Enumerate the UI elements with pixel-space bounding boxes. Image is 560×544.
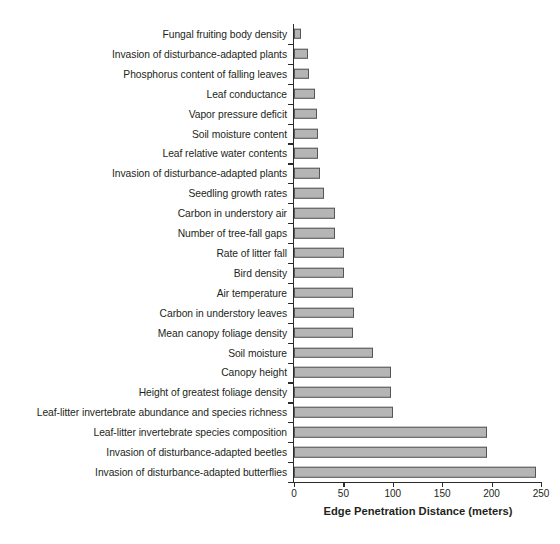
bar-row: Carbon in understory air <box>0 202 560 223</box>
bar-category-label: Invasion of disturbance-adapted butterfl… <box>95 467 287 478</box>
bar-row: Height of greatest foliage density <box>0 382 560 403</box>
bar-row: Invasion of disturbance-adapted butterfl… <box>0 461 560 482</box>
x-axis-tick <box>541 482 542 487</box>
bar-row: Leaf conductance <box>0 83 560 104</box>
bar <box>294 29 301 40</box>
bar <box>294 327 353 338</box>
bar-row: Number of tree-fall gaps <box>0 222 560 243</box>
bar-category-label: Seedling growth rates <box>188 188 287 199</box>
bar <box>294 387 391 398</box>
x-axis-tick <box>442 482 443 487</box>
edge-penetration-bar-chart: Fungal fruiting body densityInvasion of … <box>0 0 560 544</box>
bar <box>294 288 353 299</box>
bar-row: Mean canopy foliage density <box>0 322 560 343</box>
bar-category-label: Leaf-litter invertebrate species composi… <box>93 427 287 438</box>
y-axis-tick <box>288 482 293 483</box>
bar-category-label: Fungal fruiting body density <box>162 28 287 39</box>
bar-category-label: Invasion of disturbance-adapted beetles <box>106 447 287 458</box>
bar-category-label: Vapor pressure deficit <box>189 108 287 119</box>
bar-category-label: Rate of litter fall <box>216 247 287 258</box>
bar-category-label: Leaf relative water contents <box>162 148 287 159</box>
bar <box>294 407 393 418</box>
x-axis-tick-label: 100 <box>384 488 401 499</box>
bar <box>294 307 354 318</box>
bar-category-label: Invasion of disturbance-adapted plants <box>112 48 287 59</box>
bar-row: Fungal fruiting body density <box>0 23 560 44</box>
bar-row: Soil moisture <box>0 342 560 363</box>
bar <box>294 128 318 139</box>
bar-row: Air temperature <box>0 282 560 303</box>
bar-row: Canopy height <box>0 362 560 383</box>
bar <box>294 108 317 119</box>
x-axis-title: Edge Penetration Distance (meters) <box>294 505 542 517</box>
bar <box>294 248 344 259</box>
bar <box>294 427 487 438</box>
x-axis-tick-label: 50 <box>338 488 349 499</box>
bar-category-label: Number of tree-fall gaps <box>178 228 287 239</box>
bar-category-label: Carbon in understory air <box>178 208 287 219</box>
bar-row: Carbon in understory leaves <box>0 302 560 323</box>
bar <box>294 228 335 239</box>
x-axis-tick-label: 150 <box>434 488 451 499</box>
bar-row: Rate of litter fall <box>0 242 560 263</box>
x-axis-tick <box>294 482 295 487</box>
bar-category-label: Leaf conductance <box>207 88 288 99</box>
bar-category-label: Carbon in understory leaves <box>160 307 287 318</box>
bar-row: Invasion of disturbance-adapted beetles <box>0 441 560 462</box>
bar <box>294 447 487 458</box>
x-axis-tick <box>393 482 394 487</box>
x-axis-tick-label: 250 <box>533 488 550 499</box>
bar <box>294 268 344 279</box>
bar-category-label: Mean canopy foliage density <box>158 327 287 338</box>
bar <box>294 347 373 358</box>
bar-category-label: Height of greatest foliage density <box>139 387 287 398</box>
plot-area: Fungal fruiting body densityInvasion of … <box>0 0 560 544</box>
bar-row: Bird density <box>0 262 560 283</box>
bar-category-label: Invasion of disturbance-adapted plants <box>112 168 287 179</box>
bar-category-label: Leaf-litter invertebrate abundance and s… <box>37 407 287 418</box>
bar-category-label: Soil moisture <box>228 347 287 358</box>
bar-row: Soil moisture content <box>0 123 560 144</box>
bar-row: Invasion of disturbance-adapted plants <box>0 163 560 184</box>
bar-row: Seedling growth rates <box>0 183 560 204</box>
bar <box>294 148 318 159</box>
bar <box>294 208 335 219</box>
bar <box>294 168 320 179</box>
x-axis-tick <box>492 482 493 487</box>
bar <box>294 49 308 60</box>
bar-row: Leaf relative water contents <box>0 143 560 164</box>
bar <box>294 69 309 80</box>
bar-category-label: Phosphorus content of falling leaves <box>123 68 287 79</box>
bar <box>294 188 324 199</box>
bar-category-label: Bird density <box>234 267 287 278</box>
bar-category-label: Air temperature <box>217 287 287 298</box>
bar-row: Vapor pressure deficit <box>0 103 560 124</box>
bar <box>294 88 315 99</box>
bar-category-label: Canopy height <box>221 367 287 378</box>
x-axis-tick-label: 200 <box>483 488 500 499</box>
bar-row: Leaf-litter invertebrate species composi… <box>0 422 560 443</box>
bar-row: Phosphorus content of falling leaves <box>0 63 560 84</box>
bar <box>294 367 391 378</box>
bar <box>294 467 536 478</box>
x-axis-tick-label: 0 <box>291 488 297 499</box>
bar-row: Leaf-litter invertebrate abundance and s… <box>0 402 560 423</box>
bar-category-label: Soil moisture content <box>192 128 287 139</box>
x-axis-tick <box>343 482 344 487</box>
bar-row: Invasion of disturbance-adapted plants <box>0 43 560 64</box>
